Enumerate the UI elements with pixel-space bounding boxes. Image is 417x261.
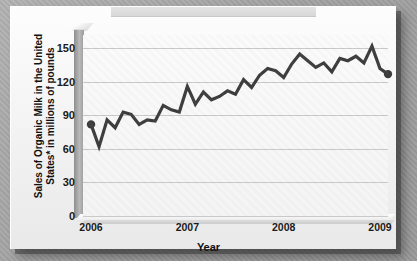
- x-axis-tick-label: 2007: [176, 221, 199, 233]
- y-axis-tick-label: 60: [63, 143, 75, 155]
- y-axis-title: Sales of Organic Milk in the United Stat…: [28, 16, 62, 216]
- series-line: [91, 46, 388, 147]
- y-axis-title-line2: States* in millions of pounds: [45, 47, 56, 184]
- panel-top-notch: [111, 7, 316, 17]
- x-axis-tick-labels: 2006200720082009: [83, 221, 403, 237]
- data-line-series: [83, 35, 388, 216]
- y-axis-title-line1: Sales of Organic Milk in the United: [33, 34, 44, 198]
- x-axis-tick-label: 2006: [79, 221, 102, 233]
- x-axis-tick-label: 2008: [272, 221, 295, 233]
- y-axis-tick-label: 30: [63, 176, 75, 188]
- data-point-marker-first: [87, 120, 95, 128]
- y-axis-tick-label: 0: [69, 210, 75, 222]
- chart-panel: 0306090120150 2006200720082009 Year Sale…: [10, 6, 396, 249]
- data-point-marker-last: [384, 70, 392, 78]
- chart-screenshot: 0306090120150 2006200720082009 Year Sale…: [0, 0, 417, 261]
- x-axis-tick-label: 2009: [368, 221, 391, 233]
- x-axis-title: Year: [11, 241, 406, 253]
- y-axis-tick-label: 90: [63, 109, 75, 121]
- plot-area: [83, 35, 388, 216]
- gridline: [83, 216, 388, 217]
